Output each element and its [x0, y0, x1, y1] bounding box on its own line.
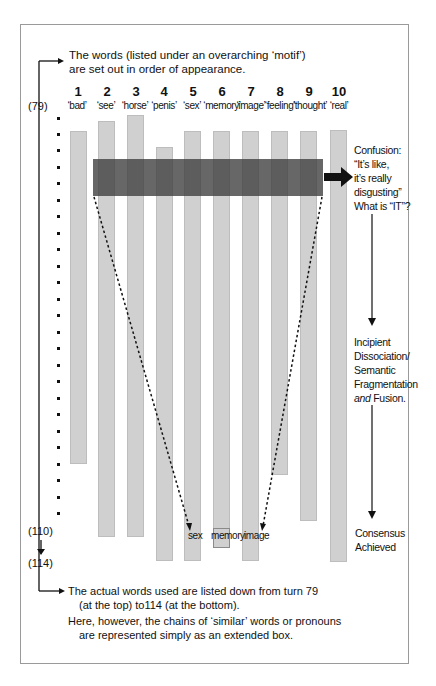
dissociation-annotation: Incipient Dissociation/ Semantic Fragmen… [354, 335, 418, 405]
turn-114-label: (114) [28, 556, 53, 570]
footer-line-4: are represented simply as an extended bo… [79, 628, 293, 642]
confusion-annotation: Confusion: “It’s like, it’s really disgu… [354, 143, 410, 213]
label-memory: memory [211, 530, 245, 541]
turn-110-label: (110) [28, 524, 53, 538]
fusion-rest: Fusion. [371, 392, 406, 404]
footer-line-1: The actual words used are listed down fr… [68, 584, 318, 598]
footer-line-3: Here, however, the chains of ‘similar’ w… [68, 614, 341, 628]
footer-line-2: (at the top) to114 (at the bottom). [79, 598, 240, 612]
consensus-annotation: Consensus Achieved [355, 526, 405, 554]
label-sex: sex [188, 530, 202, 541]
fusion-italic: and [354, 392, 371, 404]
label-image: image [244, 530, 269, 541]
